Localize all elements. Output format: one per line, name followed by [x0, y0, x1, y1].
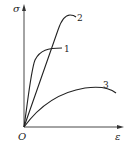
curve-3 — [24, 87, 116, 127]
curve-2-label: 2 — [77, 13, 83, 23]
x-axis-label: ε — [115, 131, 120, 142]
stress-strain-diagram: σ ε O 1 2 3 — [0, 0, 130, 150]
curve-1 — [24, 48, 62, 127]
y-axis-label: σ — [13, 3, 21, 14]
curve-3-label: 3 — [103, 80, 109, 90]
x-axis-arrow-icon — [117, 125, 124, 129]
origin-label: O — [18, 131, 26, 142]
y-axis-arrow-icon — [22, 4, 26, 11]
curve-1-label: 1 — [64, 44, 70, 54]
